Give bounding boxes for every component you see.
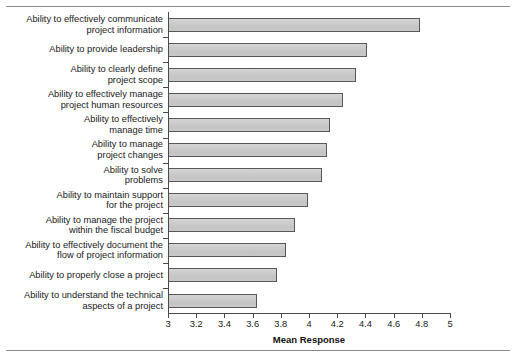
bar[interactable] [168,118,330,132]
bar[interactable] [168,218,295,232]
bar[interactable] [168,268,277,282]
bar[interactable] [168,294,257,308]
x-axis-tick-label: 4.6 [387,319,400,329]
bar-cell [168,263,516,288]
y-axis-tick [163,288,168,289]
x-axis-tick [281,313,282,318]
y-axis-tick [163,188,168,189]
bar[interactable] [168,193,308,207]
y-axis-line [168,12,169,313]
category-label: Ability to provide leadership [0,44,168,55]
bar-cell [168,12,516,37]
chart-row: Ability to solve problems [0,163,516,188]
bar[interactable] [168,243,286,257]
chart-row: Ability to effectively manage time [0,112,516,137]
category-label: Ability to clearly define project scope [0,64,168,85]
chart-row: Ability to maintain support for the proj… [0,188,516,213]
y-axis-tick [163,62,168,63]
chart-page: Ability to effectively communicate proje… [0,0,516,364]
bar-cell [168,238,516,263]
x-axis-tick-label: 3.6 [246,319,259,329]
category-label: Ability to effectively document the flow… [0,240,168,261]
x-axis-tick-label: 4.2 [331,319,344,329]
chart-row: Ability to properly close a project [0,263,516,288]
bar-cell [168,288,516,313]
bar[interactable] [168,68,356,82]
y-axis-tick [163,213,168,214]
y-axis-tick [163,37,168,38]
bar-cell [168,62,516,87]
chart-row: Ability to clearly define project scope [0,62,516,87]
x-axis-title: Mean Response [168,334,450,345]
category-label: Ability to maintain support for the proj… [0,190,168,211]
y-axis-tick [163,112,168,113]
x-axis-tick [196,313,197,318]
x-axis-tick-label: 5 [447,319,452,329]
y-axis-tick [163,263,168,264]
category-label: Ability to effectively manage time [0,114,168,135]
top-divider-rule [6,6,510,7]
bar-cell [168,37,516,62]
y-axis-tick [163,163,168,164]
bar-cell [168,137,516,162]
chart-row: Ability to understand the technical aspe… [0,288,516,313]
category-label: Ability to effectively manage project hu… [0,89,168,110]
x-axis-tick-label: 3.2 [190,319,203,329]
bar-cell [168,213,516,238]
x-axis-tick-label: 4.4 [359,319,372,329]
x-axis-tick-label: 3.4 [218,319,231,329]
bar[interactable] [168,43,367,57]
chart-row: Ability to effectively communicate proje… [0,12,516,37]
bar[interactable] [168,18,420,32]
x-axis-tick-label: 4.8 [415,319,428,329]
bar-cell [168,112,516,137]
category-label: Ability to effectively communicate proje… [0,14,168,35]
x-axis-tick [394,313,395,318]
x-axis-tick-label: 3 [165,319,170,329]
x-axis-tick [365,313,366,318]
horizontal-bar-chart: Ability to effectively communicate proje… [0,12,516,352]
chart-row: Ability to effectively manage project hu… [0,87,516,112]
y-axis-tick [163,138,168,139]
bar-cell [168,163,516,188]
chart-rows: Ability to effectively communicate proje… [0,12,516,313]
y-axis-tick [163,238,168,239]
category-label: Ability to understand the technical aspe… [0,290,168,311]
y-axis-tick [163,87,168,88]
x-axis-tick [450,313,451,318]
chart-row: Ability to provide leadership [0,37,516,62]
chart-row: Ability to manage project changes [0,137,516,162]
bar-cell [168,188,516,213]
x-axis-tick [224,313,225,318]
bar[interactable] [168,93,343,107]
x-axis-tick-label: 4 [306,319,311,329]
x-axis-tick [253,313,254,318]
bar-cell [168,87,516,112]
x-axis-tick [309,313,310,318]
category-label: Ability to manage project changes [0,139,168,160]
category-label: Ability to solve problems [0,165,168,186]
x-axis-tick [422,313,423,318]
chart-row: Ability to effectively document the flow… [0,238,516,263]
chart-row: Ability to manage the project within the… [0,213,516,238]
x-axis-tick [168,313,169,318]
category-label: Ability to manage the project within the… [0,215,168,236]
x-axis-tick-label: 3.8 [274,319,287,329]
bar[interactable] [168,168,322,182]
x-axis-tick [337,313,338,318]
bar[interactable] [168,143,327,157]
category-label: Ability to properly close a project [0,270,168,281]
